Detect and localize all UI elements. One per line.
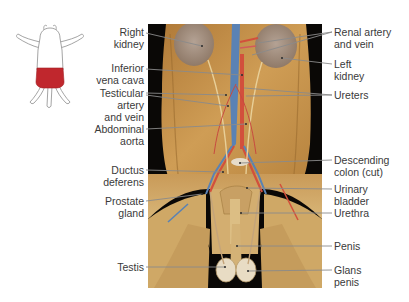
label-inferior-vena-cava: Inferior vena cava xyxy=(96,62,144,86)
label-glans-penis: Glans penis xyxy=(334,264,361,288)
label-right-kidney: Right kidney xyxy=(114,26,144,50)
label-ductus-deferens: Ductus deferens xyxy=(103,164,144,188)
label-testis: Testis xyxy=(117,261,144,273)
figure: Right kidney Inferior vena cava Testicul… xyxy=(0,0,409,302)
label-left-kidney: Left kidney xyxy=(334,58,364,82)
pig-orientation-icon xyxy=(14,20,86,112)
label-descending-colon: Descending colon (cut) xyxy=(334,154,389,178)
label-urethra: Urethra xyxy=(334,207,369,219)
label-prostate-gland: Prostate gland xyxy=(105,195,144,219)
dissection-photo xyxy=(148,24,322,288)
label-penis: Penis xyxy=(334,240,360,252)
label-abdominal-aorta: Abdominal aorta xyxy=(94,123,144,147)
label-renal-artery-vein: Renal artery and vein xyxy=(334,26,391,50)
label-urinary-bladder: Urinary bladder xyxy=(334,183,369,207)
label-testicular-artery-vein: Testicular artery and vein xyxy=(100,87,144,123)
label-ureters: Ureters xyxy=(334,89,368,101)
